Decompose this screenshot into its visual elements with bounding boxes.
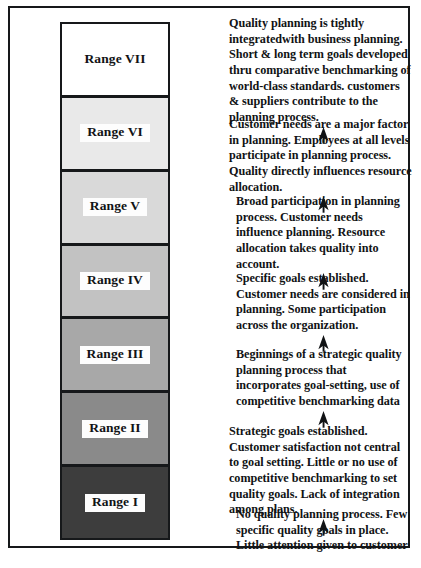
range-box-5[interactable]: Range V xyxy=(60,170,170,244)
range-label-2: Range II xyxy=(82,420,147,438)
description-text-5: Broad participation in planning process.… xyxy=(229,194,412,272)
page-margin xyxy=(0,552,421,568)
range-stack: Range VII Range VI Range V Range IV Rang… xyxy=(60,22,170,540)
range-label-7: Range VII xyxy=(84,51,145,68)
description-group-3: Beginnings of a strategic quality planni… xyxy=(229,347,412,429)
description-group-4: Specific goals established. Customer nee… xyxy=(229,271,412,353)
description-text-3: Beginnings of a strategic quality planni… xyxy=(229,347,412,410)
range-box-6[interactable]: Range VI xyxy=(60,96,170,170)
description-text-7: Quality planning is tightly integratedwi… xyxy=(229,16,412,126)
range-label-3: Range III xyxy=(80,346,151,364)
range-box-7[interactable]: Range VII xyxy=(60,22,170,96)
range-box-2[interactable]: Range II xyxy=(60,391,170,465)
description-column: Quality planning is tightly integratedwi… xyxy=(229,10,412,548)
description-text-2: Strategic goals established. Customer sa… xyxy=(229,424,412,518)
range-label-5: Range V xyxy=(83,198,147,216)
figure-frame: Range VII Range VI Range V Range IV Rang… xyxy=(8,6,410,548)
description-text-6: Customer needs are a major factor in pla… xyxy=(229,117,412,195)
range-label-4: Range IV xyxy=(80,272,150,290)
range-label-6: Range VI xyxy=(80,124,150,142)
range-box-1[interactable]: Range I xyxy=(60,465,170,540)
range-label-1: Range I xyxy=(85,494,145,512)
range-box-3[interactable]: Range III xyxy=(60,317,170,391)
description-text-4: Specific goals established. Customer nee… xyxy=(229,271,412,334)
range-box-4[interactable]: Range IV xyxy=(60,244,170,318)
